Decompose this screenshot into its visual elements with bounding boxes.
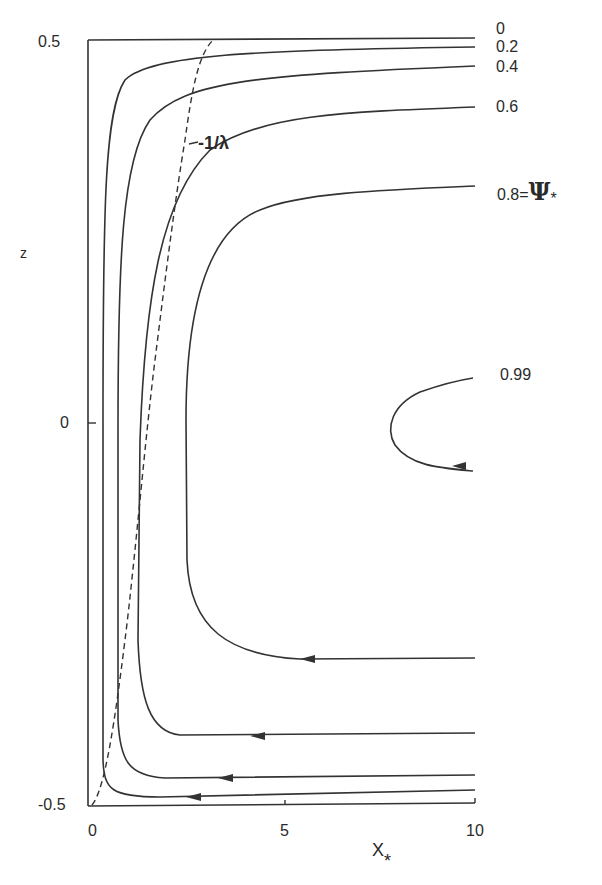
arrow-icon: [300, 655, 315, 663]
streamline-0.99: [391, 378, 473, 471]
lambda-leader-line: [189, 142, 198, 144]
label-equals: =: [519, 186, 528, 203]
label-streamline-0.2: 0.2: [496, 38, 518, 56]
axis-ticks: [88, 423, 475, 805]
y-tick-neg-0.5: -0.5: [38, 796, 66, 814]
streamline-0.8: [186, 186, 475, 659]
y-tick-0.5: 0.5: [38, 33, 60, 51]
x-axis-label: X*: [372, 840, 391, 866]
x-tick-0: 0: [88, 822, 97, 840]
y-axis-label: z: [20, 245, 27, 261]
streamline-0.6: [138, 107, 475, 735]
psi-subscript: *: [551, 190, 557, 207]
x-tick-10: 10: [466, 822, 484, 840]
direction-arrows: [186, 462, 466, 801]
streamlines: [103, 47, 475, 797]
x-axis-label-main: X: [372, 840, 384, 860]
label-streamline-0: 0: [496, 20, 505, 38]
streamline-0.2: [103, 47, 475, 797]
label-inverse-lambda: -1/λ: [198, 133, 229, 154]
arrow-icon: [186, 793, 201, 801]
label-streamline-0.6: 0.6: [496, 98, 518, 116]
x-axis-subscript: *: [384, 851, 391, 871]
arrow-icon: [250, 732, 265, 740]
plot-frame: [88, 38, 475, 806]
inverse-lambda-curve: [92, 40, 213, 805]
label-streamline-0.99: 0.99: [500, 366, 531, 384]
streamline-plot: [0, 0, 602, 885]
y-tick-0: 0: [60, 414, 69, 432]
x-tick-5: 5: [280, 822, 289, 840]
label-0.8-value: 0.8: [497, 186, 519, 203]
label-streamline-0.8: 0.8=Ψ*: [497, 177, 557, 208]
streamline-0.4: [118, 66, 475, 778]
arrow-icon: [218, 774, 233, 782]
label-streamline-0.4: 0.4: [496, 58, 518, 76]
psi-symbol: Ψ: [529, 177, 551, 206]
